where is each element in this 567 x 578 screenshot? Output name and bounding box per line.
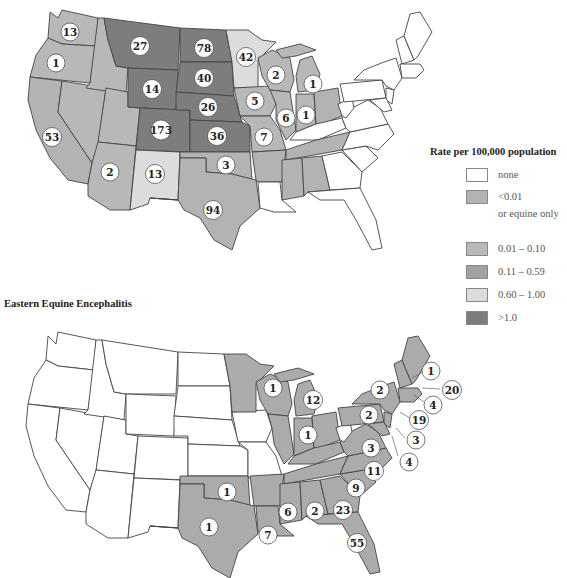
svg-text:2: 2 [365, 409, 372, 421]
case-label-nc: 11 [365, 462, 384, 481]
state-az [86, 470, 134, 538]
svg-text:6: 6 [282, 112, 289, 124]
svg-text:19: 19 [412, 414, 427, 426]
case-label-nj: 19 [410, 411, 429, 430]
svg-text:7: 7 [260, 131, 267, 143]
svg-text:55: 55 [350, 537, 365, 549]
case-label-ok: 3 [217, 156, 235, 174]
svg-text:42: 42 [239, 51, 254, 63]
svg-text:94: 94 [206, 204, 221, 216]
svg-text:2: 2 [272, 69, 279, 81]
case-label-ca: 53 [43, 128, 62, 147]
state-ar [252, 150, 286, 182]
case-label-ma: 20 [443, 381, 462, 400]
svg-text:1: 1 [52, 57, 59, 69]
case-label-az: 2 [101, 163, 119, 181]
state-ar [250, 474, 284, 506]
legend-swatch-001-010 [466, 242, 488, 256]
legend: Rate per 100,000 population none <0.01 o… [430, 146, 567, 157]
case-label-in: 1 [297, 106, 315, 124]
legend-label: <0.01 [498, 190, 559, 204]
case-label-ok: 1 [218, 483, 236, 501]
legend-item-011-059: 0.11 – 0.59 [466, 265, 545, 279]
state-nm [128, 478, 180, 538]
case-label-ne: 26 [199, 98, 218, 117]
case-label-mn: 42 [237, 48, 256, 67]
state-nd [178, 352, 230, 386]
case-label-ri: 4 [424, 396, 442, 414]
legend-item-001-010: 0.01 – 0.10 [466, 242, 545, 256]
svg-text:13: 13 [148, 168, 163, 180]
legend-sublabel: or equine only [498, 207, 559, 221]
case-label-ga: 23 [334, 501, 353, 520]
case-label-la: 7 [259, 526, 277, 544]
case-label-mi: 1 [304, 75, 322, 93]
case-label-ks: 36 [208, 127, 227, 146]
state-ma-ct-ri [400, 64, 424, 78]
state-co [134, 436, 188, 480]
case-label-co: 173 [150, 120, 172, 140]
svg-text:11: 11 [367, 465, 382, 477]
case-label-wy: 14 [143, 80, 162, 99]
case-label-tx: 1 [200, 518, 218, 536]
case-label-mo: 7 [255, 128, 273, 146]
case-label-wi: 1 [264, 379, 282, 397]
state-mi-up [276, 44, 316, 58]
case-label-fl: 55 [348, 534, 367, 553]
legend-swatch-none [466, 168, 488, 182]
state-sd [174, 386, 232, 420]
state-wy [126, 394, 176, 436]
legend-item-none: none [466, 168, 518, 182]
legend-swatch-lt001 [466, 190, 488, 204]
svg-text:2: 2 [376, 384, 383, 396]
svg-text:5: 5 [251, 95, 258, 107]
svg-text:14: 14 [145, 83, 160, 95]
svg-text:40: 40 [197, 72, 212, 84]
state-ks [188, 444, 248, 476]
svg-text:1: 1 [223, 486, 230, 498]
state-mt [102, 340, 178, 394]
svg-text:12: 12 [306, 394, 321, 406]
svg-text:27: 27 [133, 40, 148, 52]
case-label-al: 2 [306, 502, 324, 520]
case-label-nd: 78 [195, 39, 214, 58]
state-mi-up [274, 368, 314, 382]
case-label-sd: 40 [195, 69, 214, 88]
legend-title: Rate per 100,000 population [430, 146, 567, 157]
case-label-ny: 2 [371, 381, 389, 399]
svg-text:23: 23 [336, 504, 351, 516]
legend-label: 0.11 – 0.59 [498, 265, 545, 279]
state-fl [306, 512, 380, 574]
svg-text:1: 1 [309, 78, 316, 90]
case-label-mi: 12 [304, 391, 323, 410]
svg-text:1: 1 [205, 521, 212, 533]
legend-label-group: <0.01 or equine only [488, 190, 559, 221]
case-label-tx: 94 [204, 201, 223, 220]
svg-text:3: 3 [412, 434, 419, 446]
svg-text:13: 13 [63, 26, 78, 38]
case-label-de: 3 [407, 431, 425, 449]
svg-text:1: 1 [304, 429, 311, 441]
legend-swatch-011-059 [466, 265, 488, 279]
case-label-wa: 13 [61, 23, 79, 41]
case-label-or: 1 [47, 54, 65, 72]
case-label-in: 1 [299, 426, 317, 444]
case-label-nm: 13 [146, 165, 165, 184]
bottom-map-svg: 1 12 1 2 2 1 20 4 19 3 4 3 11 9 1 1 6 2 … [0, 290, 567, 578]
svg-text:2: 2 [106, 166, 113, 178]
svg-text:26: 26 [201, 101, 216, 113]
svg-text:1: 1 [302, 109, 309, 121]
svg-text:1: 1 [427, 365, 434, 377]
svg-text:4: 4 [405, 456, 412, 468]
state-ia [232, 410, 272, 442]
svg-text:2: 2 [311, 505, 318, 517]
case-label-mt: 27 [131, 37, 150, 56]
case-label-nh: 1 [422, 362, 440, 380]
svg-text:3: 3 [222, 159, 229, 171]
case-label-sc: 9 [347, 479, 365, 497]
case-label-il: 6 [277, 109, 295, 127]
legend-label: 0.01 – 0.10 [498, 242, 545, 256]
svg-text:3: 3 [367, 442, 374, 454]
case-label-pa: 2 [360, 406, 378, 424]
state-ma-ct-ri [398, 388, 422, 402]
